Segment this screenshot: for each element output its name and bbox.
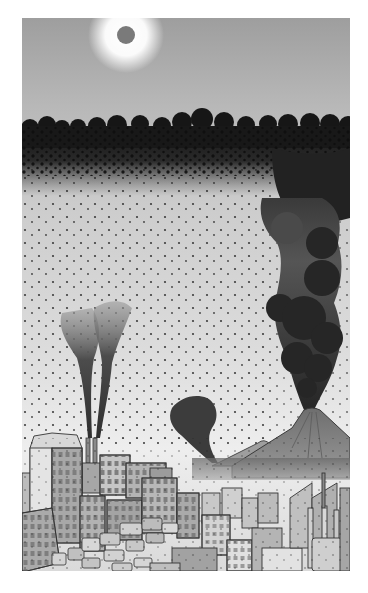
falling-soot-particles: [22, 168, 272, 448]
illustration-canvas: [22, 18, 350, 571]
soot-over-city: [22, 438, 350, 571]
pollution-illustration: [22, 18, 350, 571]
